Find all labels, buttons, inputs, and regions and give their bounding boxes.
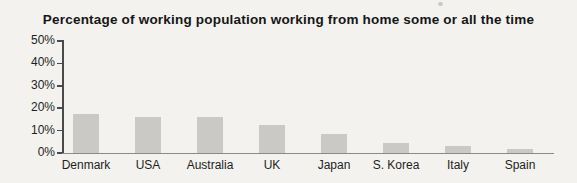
y-tick-mark [57,152,62,154]
y-tick-mark [57,40,62,42]
bar [259,125,285,153]
y-tick-mark [57,130,62,132]
y-tick-label: 0% [9,145,55,159]
y-tick-mark [57,85,62,87]
scan-artifact [438,2,443,6]
y-tick-mark [57,63,62,65]
bar [383,143,409,153]
bar-chart: Percentage of working population working… [0,0,577,183]
bar [445,146,471,153]
bar [507,149,533,153]
bar [73,114,99,153]
y-tick-label: 30% [9,78,55,92]
y-axis-line [62,40,64,154]
y-tick-label: 10% [9,123,55,137]
bar [321,134,347,153]
bar-label: Spain [475,158,565,172]
y-tick-label: 20% [9,100,55,114]
bar [135,117,161,153]
y-tick-mark [57,107,62,109]
y-tick-label: 50% [9,33,55,47]
chart-title: Percentage of working population working… [0,12,577,27]
y-tick-label: 40% [9,55,55,69]
bar [197,117,223,153]
